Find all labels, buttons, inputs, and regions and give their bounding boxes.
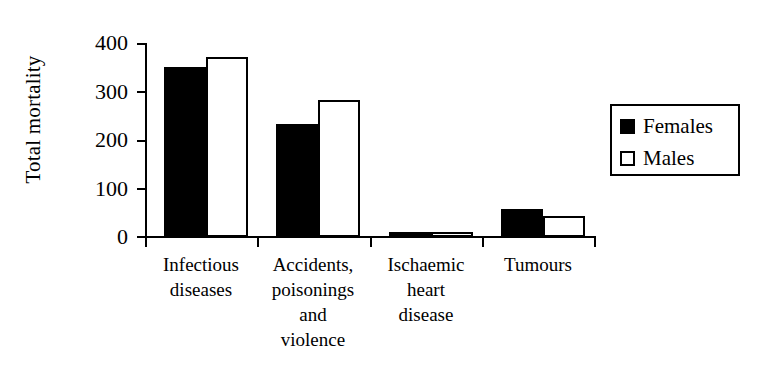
y-tick-label-300: 300 <box>72 81 128 103</box>
bar-chart-figure: Total mortality 400 300 200 100 0 Infect… <box>0 0 777 383</box>
y-tick-label-100: 100 <box>72 178 128 200</box>
x-category-label-ischaemic-heart-disease: Ischaemic heart disease <box>370 252 482 327</box>
x-category-label-accidents-poisonings-violence: Accidents, poisonings and violence <box>257 252 369 352</box>
y-tick-label-200: 200 <box>72 129 128 151</box>
bar-females-ischaemic-heart-disease <box>389 232 431 237</box>
y-axis-tick-300 <box>137 91 146 93</box>
legend-label-females: Females <box>643 116 713 137</box>
x-axis-tick-4 <box>594 238 596 247</box>
x-category-label-tumours: Tumours <box>482 252 594 277</box>
chart-legend: Females Males <box>610 104 740 176</box>
y-tick-label-400: 400 <box>72 32 128 54</box>
bar-males-tumours <box>543 216 585 237</box>
legend-swatch-males-icon <box>620 151 635 166</box>
y-axis-title: Total mortality <box>21 25 46 215</box>
y-axis-tick-200 <box>137 140 146 142</box>
y-tick-label-0: 0 <box>72 226 128 248</box>
bar-females-infectious-diseases <box>164 67 206 237</box>
legend-item-males: Males <box>620 142 738 174</box>
x-axis-tick-1 <box>257 238 259 247</box>
legend-swatch-females-icon <box>620 119 635 134</box>
bar-males-accidents-poisonings-violence <box>318 100 360 237</box>
y-axis-tick-400 <box>137 43 146 45</box>
legend-label-males: Males <box>643 148 694 169</box>
bar-males-ischaemic-heart-disease <box>431 232 473 237</box>
x-axis-tick-0 <box>145 238 147 247</box>
bar-females-accidents-poisonings-violence <box>276 124 318 237</box>
bar-females-tumours <box>501 209 543 237</box>
y-axis-tick-100 <box>137 188 146 190</box>
bar-males-infectious-diseases <box>206 57 248 237</box>
legend-item-females: Females <box>620 110 738 142</box>
x-axis-tick-3 <box>482 238 484 247</box>
y-axis-tick-labels: 400 300 200 100 0 <box>72 0 128 383</box>
x-category-label-infectious-diseases: Infectious diseases <box>145 252 257 302</box>
x-axis-tick-2 <box>370 238 372 247</box>
